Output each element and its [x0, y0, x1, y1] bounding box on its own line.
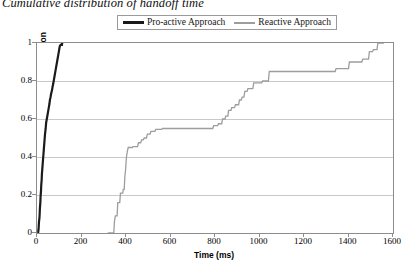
- x-tick-mark: [259, 233, 260, 237]
- y-tick-label: 1: [16, 37, 32, 48]
- x-tick-mark: [214, 233, 215, 237]
- x-tick-label: 600: [150, 236, 190, 247]
- y-tick-mark: [32, 156, 36, 157]
- plot-svg: [37, 43, 393, 233]
- x-tick-label: 1200: [283, 236, 323, 247]
- x-tick-mark: [392, 233, 393, 237]
- chart-figure: Cumulative distribution of handoff time …: [0, 0, 404, 267]
- y-tick-mark: [32, 80, 36, 81]
- x-tick-mark: [81, 233, 82, 237]
- legend-label-proactive: Pro-active Approach: [147, 17, 225, 28]
- x-tick-mark: [36, 233, 37, 237]
- x-tick-mark: [125, 233, 126, 237]
- chart-legend: Pro-active Approach Reactive Approach: [117, 15, 337, 30]
- series-line-reactive: [108, 43, 384, 233]
- x-tick-label: 0: [16, 236, 56, 247]
- y-tick-label: 0.4: [16, 151, 32, 162]
- x-tick-mark: [170, 233, 171, 237]
- x-tick-label: 800: [194, 236, 234, 247]
- gridlines: [37, 81, 393, 195]
- y-tick-mark: [32, 42, 36, 43]
- y-tick-label: 0.6: [16, 113, 32, 124]
- x-axis-title: Time (ms): [36, 250, 392, 261]
- legend-swatch-reactive-icon: [234, 22, 255, 24]
- x-tick-mark: [303, 233, 304, 237]
- x-tick-label: 1000: [239, 236, 279, 247]
- chart-title: Cumulative distribution of handoff time: [2, 0, 322, 11]
- series-line-proactive: [38, 43, 63, 233]
- legend-swatch-proactive-icon: [123, 21, 144, 24]
- x-tick-label: 200: [61, 236, 101, 247]
- y-tick-mark: [32, 118, 36, 119]
- x-tick-mark: [348, 233, 349, 237]
- x-tick-label: 1400: [328, 236, 368, 247]
- legend-entry-proactive: Pro-active Approach: [123, 17, 225, 28]
- series-layer: [38, 43, 384, 233]
- legend-entry-reactive: Reactive Approach: [234, 17, 331, 28]
- y-tick-label: 0.8: [16, 75, 32, 86]
- legend-label-reactive: Reactive Approach: [258, 17, 331, 28]
- y-tick-label: 0.2: [16, 189, 32, 200]
- y-axis-tick-labels: 00.20.40.60.81: [14, 42, 32, 232]
- x-tick-label: 1600: [372, 236, 404, 247]
- plot-area: [36, 42, 394, 234]
- x-tick-label: 400: [105, 236, 145, 247]
- y-tick-mark: [32, 194, 36, 195]
